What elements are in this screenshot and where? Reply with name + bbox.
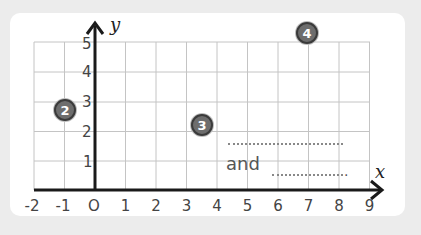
x-tick-label: 6 — [273, 199, 283, 214]
y-tick-label: 1 — [83, 155, 93, 170]
x-axis-title: x — [375, 163, 385, 181]
and-text: and — [226, 155, 260, 173]
y-tick-label: 3 — [82, 95, 92, 110]
x-tick-label: 8 — [334, 199, 344, 214]
x-tick-label: 9 — [365, 199, 375, 214]
marker-2: 2 — [54, 99, 76, 121]
x-tick-label: 3 — [182, 199, 192, 214]
x-tick-label: O — [88, 199, 100, 214]
y-tick-label: 2 — [82, 125, 92, 140]
x-tick-label: -2 — [25, 199, 40, 214]
y-axis-title: y — [110, 16, 120, 34]
x-tick-label: 2 — [151, 199, 161, 214]
answer-blank-1[interactable] — [228, 143, 343, 145]
marker-label: 3 — [197, 118, 206, 133]
x-tick-label: 7 — [304, 199, 314, 214]
marker-3: 3 — [191, 114, 213, 136]
answer-blank-2[interactable] — [272, 174, 343, 176]
marker-label: 4 — [302, 26, 311, 41]
x-tick-label: 5 — [243, 199, 253, 214]
y-tick-label: 5 — [82, 37, 92, 52]
x-tick-label: -1 — [56, 199, 71, 214]
marker-4: 4 — [296, 22, 318, 44]
x-tick-label: 1 — [121, 199, 131, 214]
x-tick-label: 4 — [212, 199, 222, 214]
coordinate-grid: y x -2 -1 O 1 2 3 4 5 6 7 8 9 1 2 3 4 5 … — [0, 0, 421, 235]
marker-label: 2 — [60, 103, 69, 118]
period: . — [344, 164, 348, 178]
y-tick-label: 4 — [82, 65, 92, 80]
